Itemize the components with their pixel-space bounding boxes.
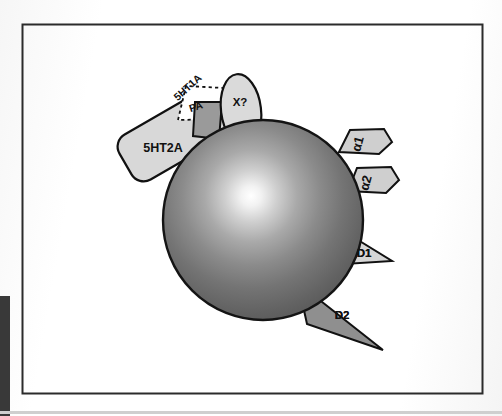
scan-bottom-rule-artifact (0, 411, 502, 414)
receptor-5ht2a-label: 5HT2A (143, 141, 183, 155)
receptor-profile-figure: 5HT2A 5HT1A PA X? α1 α2 D1 (0, 0, 502, 416)
figure-root: 5HT2A 5HT1A PA X? α1 α2 D1 (0, 0, 502, 416)
receptor-x-unknown-label: X? (233, 96, 248, 108)
scan-edge-artifact (0, 296, 10, 416)
receptor-alpha1: α1 (339, 129, 392, 154)
drug-molecule-sphere (163, 120, 363, 320)
receptor-d1-label-front: D1 (357, 247, 372, 259)
receptor-d2-label-front: D2 (335, 309, 350, 321)
